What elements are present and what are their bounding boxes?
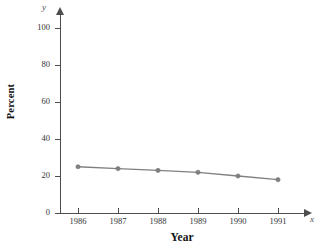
data-point-1989 [196, 170, 200, 174]
data-point-1990 [236, 174, 240, 178]
line-chart: y x Percent Year 020406080100 1986198719… [0, 0, 333, 252]
data-point-1987 [116, 167, 120, 171]
plot-area [0, 0, 333, 252]
data-point-1986 [76, 165, 80, 169]
data-point-1988 [156, 168, 160, 172]
data-point-1991 [276, 178, 280, 182]
data-line-percent [78, 167, 278, 180]
